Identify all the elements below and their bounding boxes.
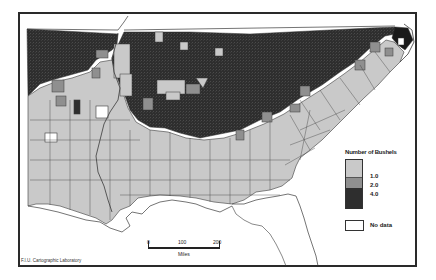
legend-no-data-label: No data [370, 222, 392, 228]
state-boundary-north [27, 16, 395, 30]
choropleth-map [0, 0, 436, 280]
legend-swatch-no-data [345, 220, 364, 231]
no-data-county-nc [398, 38, 404, 45]
scale-unit: Miles [178, 251, 190, 257]
legend: Number of Bushels 1.0 2.0 4.0 No data [345, 149, 415, 155]
legend-break-3: 4.0 [370, 191, 378, 197]
legend-swatch-low [346, 160, 362, 178]
legend-break-1: 1.0 [370, 173, 378, 179]
legend-swatch-high [346, 188, 362, 209]
scale-label-0: 0 [147, 239, 150, 245]
legend-title: Number of Bushels [345, 149, 415, 155]
florida-coastline [232, 194, 318, 266]
florida-gulf-coast [232, 206, 286, 266]
scale-label-100: 100 [178, 239, 186, 245]
map-credit: F.I.U. Cartographic Laboratory [21, 258, 81, 263]
scale-line [148, 247, 220, 249]
scale-bar: 0 100 200 Miles [146, 239, 221, 259]
legend-break-2: 2.0 [370, 182, 378, 188]
legend-swatch-mid [346, 178, 362, 188]
scale-label-200: 200 [213, 239, 221, 245]
legend-color-ramp [345, 159, 363, 209]
